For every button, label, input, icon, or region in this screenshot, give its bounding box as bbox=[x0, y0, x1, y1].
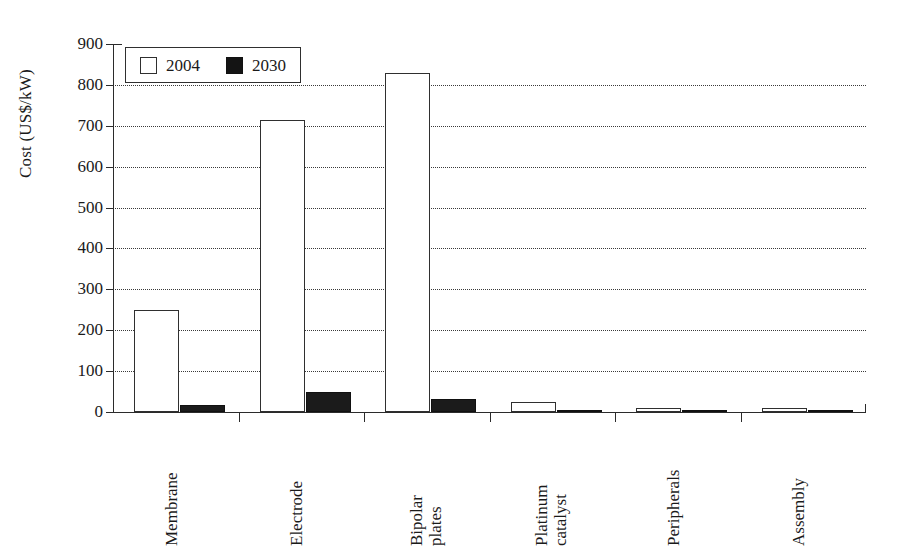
legend-label: 2004 bbox=[166, 57, 200, 74]
legend-label: 2030 bbox=[252, 57, 286, 74]
y-axis-tick-label: 0 bbox=[51, 403, 103, 420]
bar-bipolar-plates-2004 bbox=[385, 73, 430, 412]
x-axis-label-assembly: Assembly bbox=[785, 418, 805, 548]
y-axis-tick-label: 100 bbox=[51, 362, 103, 379]
y-axis-tick-label: 900 bbox=[51, 35, 103, 52]
x-axis-category-labels: MembraneElectrodeBipolarplatesPlatinumca… bbox=[113, 418, 866, 552]
x-axis-label-bipolar-plates: Bipolarplates bbox=[409, 418, 429, 548]
y-axis-tick-label: 700 bbox=[51, 117, 103, 134]
bar-chart-figure: Cost (US$/kW) 90080070060050040030020010… bbox=[0, 0, 909, 552]
plot-area bbox=[113, 44, 866, 412]
y-axis-tick-label: 800 bbox=[51, 76, 103, 93]
bar-electrode-2004 bbox=[260, 120, 305, 412]
bars-layer bbox=[113, 44, 866, 412]
legend-entry-2004: 2004 bbox=[140, 57, 200, 74]
y-axis-tick-label: 300 bbox=[51, 280, 103, 297]
y-axis-title: Cost (US$/kW) bbox=[16, 0, 44, 178]
open-square-swatch bbox=[140, 57, 157, 74]
bar-bipolar-plates-2030 bbox=[431, 399, 476, 412]
y-axis-tick bbox=[106, 412, 114, 413]
bar-platinum-catalyst-2004 bbox=[511, 402, 556, 412]
bar-peripherals-2004 bbox=[636, 408, 681, 412]
bar-electrode-2030 bbox=[306, 392, 351, 412]
filled-square-swatch bbox=[226, 57, 243, 74]
x-axis-label-electrode: Electrode bbox=[283, 418, 303, 548]
x-axis-label-membrane: Membrane bbox=[158, 418, 178, 548]
y-axis-tick-label: 400 bbox=[51, 239, 103, 256]
bar-assembly-2004 bbox=[762, 408, 807, 412]
bar-platinum-catalyst-2030 bbox=[557, 410, 602, 412]
y-axis-tick-label: 600 bbox=[51, 158, 103, 175]
bar-peripherals-2030 bbox=[682, 410, 727, 412]
legend-entry-2030: 2030 bbox=[226, 57, 286, 74]
y-axis-tick-labels: 9008007006005004003002001000 bbox=[47, 44, 103, 412]
y-axis-tick-label: 500 bbox=[51, 199, 103, 216]
bar-membrane-2030 bbox=[180, 405, 225, 412]
legend: 20042030 bbox=[125, 47, 301, 83]
x-axis-label-peripherals: Peripherals bbox=[660, 418, 680, 548]
y-axis-tick-label: 200 bbox=[51, 321, 103, 338]
bar-membrane-2004 bbox=[134, 310, 179, 412]
x-axis-label-platinum-catalyst: Platinumcatalyst bbox=[534, 418, 554, 548]
bar-assembly-2030 bbox=[808, 410, 853, 412]
